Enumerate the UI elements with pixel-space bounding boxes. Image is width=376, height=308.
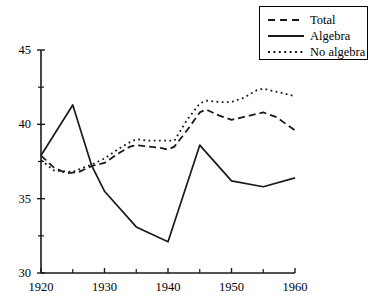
legend: TotalAlgebraNo algebra (259, 6, 368, 60)
y-tick-label: 30 (5, 267, 31, 280)
legend-item-no-algebra: No algebra (266, 44, 365, 60)
series-line-total (41, 109, 295, 173)
x-tick-label: 1940 (148, 281, 188, 294)
y-tick-label: 35 (5, 193, 31, 206)
legend-label: Algebra (306, 30, 350, 43)
legend-label: No algebra (306, 46, 365, 59)
x-tick-label: 1950 (212, 281, 252, 294)
axes (37, 50, 295, 273)
legend-line-sample-dashed (266, 14, 306, 26)
line-chart: 30354045 19201930194019501960 TotalAlgeb… (0, 0, 376, 308)
y-tick-label: 40 (5, 118, 31, 131)
x-tick-label: 1960 (275, 281, 315, 294)
x-tick-label: 1930 (85, 281, 125, 294)
legend-item-total: Total (266, 12, 336, 28)
legend-item-algebra: Algebra (266, 28, 350, 44)
y-tick-label: 45 (5, 44, 31, 57)
series-line-algebra (41, 105, 295, 242)
series-line-no-algebra (41, 89, 295, 172)
legend-line-sample-dotted (266, 46, 306, 58)
x-tick-label: 1920 (21, 281, 61, 294)
data-series (41, 89, 295, 242)
legend-line-sample-solid (266, 30, 306, 42)
legend-label: Total (306, 14, 336, 27)
